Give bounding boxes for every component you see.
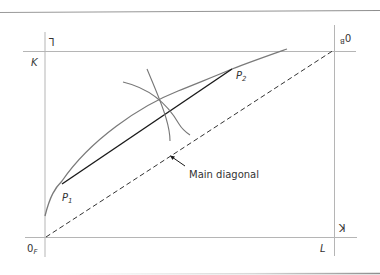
- annotation-pointer: [172, 157, 185, 166]
- segment-p1-p2: [62, 69, 232, 184]
- arrow-head-icon: [170, 156, 175, 161]
- contract-curve: [45, 49, 287, 216]
- top-left-axis-label: L: [49, 36, 55, 46]
- origin-b-label: 0B: [340, 32, 351, 44]
- main-diagonal-label: Main diagonal: [189, 169, 259, 180]
- bottom-rule: [60, 274, 380, 275]
- origin-f-label: 0F: [27, 244, 37, 256]
- right-axis-label-k-flipped: K: [339, 222, 346, 232]
- point-p2-label: P2: [236, 71, 247, 83]
- edgeworth-box-diagram: [0, 0, 380, 275]
- main-diagonal: [46, 50, 334, 237]
- arc-2: [147, 69, 170, 141]
- point-p1-label: P1: [62, 193, 73, 205]
- bottom-axis-label-l: L: [320, 244, 326, 254]
- left-axis-label-k: K: [31, 58, 38, 68]
- top-rule: [0, 11, 380, 13]
